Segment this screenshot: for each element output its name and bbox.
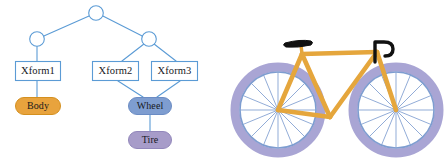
wheel-leaf-box[interactable]: [129, 98, 172, 115]
root-group-node[interactable]: [89, 6, 104, 21]
scene-graph-panel: Xform1 Xform2 Xform3 Body Wheel Tire: [0, 0, 222, 162]
xform3-box[interactable]: [152, 62, 198, 81]
xform1-box[interactable]: [16, 62, 61, 81]
transform-node-boxes: [16, 62, 198, 81]
edge-root-to-left-group: [43, 16, 89, 37]
saddle-icon: [284, 40, 313, 47]
xform2-box[interactable]: [93, 62, 139, 81]
right-group-node[interactable]: [142, 32, 157, 47]
left-group-node[interactable]: [30, 32, 45, 47]
scene-graph-group-nodes: [30, 6, 157, 47]
scene-graph-canvas: [0, 0, 222, 162]
frame-top-tube: [302, 52, 377, 54]
bicycle-panel: [222, 0, 445, 162]
body-leaf-box[interactable]: [16, 98, 61, 115]
edge-right-group-to-xform2: [122, 44, 144, 61]
edge-right-group-to-xform3: [154, 44, 176, 61]
edge-root-to-right-group: [102, 16, 142, 37]
figure-root: Xform1 Xform2 Xform3 Body Wheel Tire: [0, 0, 445, 162]
geometry-leaf-boxes: [16, 98, 172, 149]
edge-xform2-to-wheel: [118, 81, 143, 97]
tire-leaf-box[interactable]: [129, 132, 172, 149]
saddle[interactable]: [284, 40, 313, 47]
edge-xform3-to-wheel: [157, 81, 180, 97]
bicycle-canvas: [222, 0, 445, 162]
